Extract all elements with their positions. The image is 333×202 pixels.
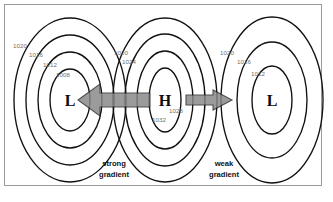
low-left-label-1020: 1020: [13, 42, 28, 49]
weak-gradient-caption-line1: weak: [214, 159, 234, 168]
low-left-label-1008: 1008: [56, 71, 71, 78]
strong-gradient-caption-line1: strong: [102, 159, 126, 168]
low-left-letter: L: [65, 92, 76, 109]
high-center-label-1028: 1028: [169, 107, 184, 114]
low-right-label-1020: 1020: [220, 49, 235, 56]
high-center-label-1024: 1024: [122, 58, 137, 65]
pressure-gradient-figure: L H L 1020 1016 1012 1008 1020 1024 1028…: [0, 0, 333, 202]
weak-gradient-caption-line2: gradient: [209, 170, 239, 179]
isobar-diagram: L H L 1020 1016 1012 1008 1020 1024 1028…: [0, 0, 333, 202]
low-left-label-1012: 1012: [43, 61, 58, 68]
low-right-label-1012: 1012: [251, 70, 266, 77]
strong-gradient-caption-line2: gradient: [99, 170, 129, 179]
high-center-label-1020: 1020: [114, 49, 129, 56]
low-left-label-1016: 1016: [29, 51, 44, 58]
low-right-letter: L: [267, 92, 278, 109]
high-center-label-1032: 1032: [152, 116, 167, 123]
low-right-label-1016: 1016: [237, 58, 252, 65]
